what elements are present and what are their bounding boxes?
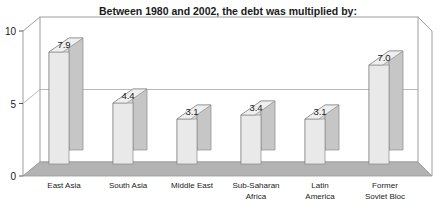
bar-front-face [49,52,69,164]
bar-side-face [389,51,403,150]
category-label-sub-saharan-africa-line1: Sub-Saharan [232,181,279,190]
bar-former-soviet-bloc[interactable] [369,51,403,164]
value-label-former-soviet-bloc: 7.0 [377,52,390,63]
left-depth-edge-top [23,17,40,31]
value-label-middle-east: 3.1 [185,106,198,117]
bar-front-face [369,65,389,164]
value-label-east-asia: 7.9 [57,39,70,50]
chart-title: Between 1980 and 2002, the debt was mult… [99,5,357,17]
bar-front-face [177,119,197,164]
bar-east-asia[interactable] [49,38,83,164]
category-label-former-soviet-bloc-line2: Soviet Bloc [365,192,405,201]
value-label-sub-saharan-africa: 3.4 [249,102,262,113]
bar-side-face [69,38,83,150]
y-tick-label-0: 0 [10,171,16,182]
value-label-latin-america: 3.1 [313,106,326,117]
right-depth-edge-top [418,17,432,31]
category-label-latin-america-line1: Latin [311,181,328,190]
bar-side-face [133,89,147,150]
category-label-middle-east: Middle East [171,181,214,190]
y-tick-label-5: 5 [10,99,16,110]
category-label-latin-america-line2: America [305,192,335,201]
bar-front-face [305,119,325,164]
category-label-east-asia: East Asia [47,181,81,190]
category-labels: East Asia South Asia Middle East Sub-Sah… [47,181,405,201]
bar-front-face [241,115,261,164]
bar-front-face [113,103,133,164]
gridline-5-depth [23,90,40,104]
debt-multiplier-bar-chart: 10 5 0 Between 1980 and 2002, the debt w… [0,0,440,210]
category-label-south-asia: South Asia [109,181,148,190]
category-label-sub-saharan-africa-line2: Africa [246,192,267,201]
chart-canvas: 10 5 0 Between 1980 and 2002, the debt w… [0,0,440,210]
category-label-former-soviet-bloc-line1: Former [372,181,398,190]
y-axis-ticks: 10 5 0 [5,26,23,182]
value-label-south-asia: 4.4 [121,90,134,101]
y-tick-label-10: 10 [5,26,17,37]
